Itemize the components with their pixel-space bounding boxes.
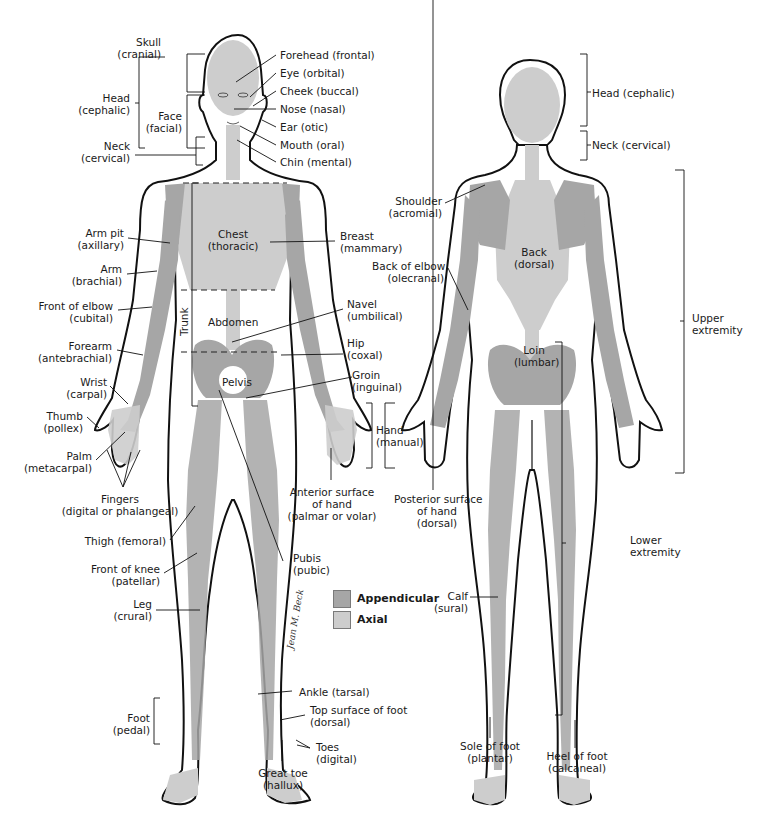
label-lower-extremity: Lower extremity	[630, 534, 681, 558]
label-navel-line1: Navel	[347, 298, 403, 310]
label-toes-line2: (digital)	[316, 753, 357, 765]
label-front-of-knee: Front of knee (patellar)	[60, 563, 160, 587]
label-front-of-knee-line2: (patellar)	[60, 575, 160, 587]
label-mouth: Mouth (oral)	[280, 139, 345, 151]
label-chest: Chest (thoracic)	[205, 228, 261, 252]
label-forehead: Forehead (frontal)	[280, 49, 375, 61]
label-forearm-line2: (antebrachial)	[10, 352, 112, 364]
label-chest-line2: (thoracic)	[205, 240, 261, 252]
label-great-toe-line1: Great toe	[255, 767, 311, 779]
label-nose: Nose (nasal)	[280, 103, 346, 115]
label-navel: Navel (umbilical)	[347, 298, 403, 322]
label-pelvis: Pelvis	[222, 376, 252, 388]
label-hip-line1: Hip	[347, 337, 383, 349]
label-shoulder-line2: (acromial)	[380, 207, 442, 219]
label-skull-line2: (cranial)	[96, 48, 161, 60]
label-groin-line2: (inguinal)	[352, 381, 402, 393]
label-foot-line1: Foot	[100, 712, 150, 724]
label-posterior-hand-line2: of hand	[394, 505, 480, 517]
label-anterior-surface-of-hand: Anterior surface of hand (palmar or vola…	[282, 486, 382, 522]
label-posterior-hand-line1: Posterior surface	[394, 493, 480, 505]
label-cheek: Cheek (buccal)	[280, 85, 359, 97]
label-back-elbow-line2: (olecranal)	[372, 272, 444, 284]
label-leg-line2: (crural)	[100, 610, 152, 622]
label-loin: Loin (lumbar)	[514, 344, 554, 368]
label-abdomen: Abdomen	[208, 316, 258, 328]
label-shoulder-line1: Shoulder	[380, 195, 442, 207]
label-front-of-elbow: Front of elbow (cubital)	[10, 300, 113, 324]
label-upper-extremity-line2: extremity	[692, 324, 743, 336]
label-toes-line1: Toes	[316, 741, 357, 753]
label-great-toe-line2: (hallux)	[255, 779, 311, 791]
legend-label-appendicular: Appendicular	[357, 592, 439, 605]
label-palm: Palm (metacarpal)	[10, 450, 92, 474]
label-lower-extremity-line2: extremity	[630, 546, 681, 558]
posterior-figure	[402, 60, 662, 805]
label-neck-posterior: Neck (cervical)	[592, 139, 671, 151]
label-hip: Hip (coxal)	[347, 337, 383, 361]
label-breast-line1: Breast	[340, 230, 402, 242]
label-arm-pit: Arm pit (axillary)	[50, 227, 124, 251]
label-posterior-surface-of-hand: Posterior surface of hand (dorsal)	[394, 493, 480, 529]
label-heel-of-foot: Heel of foot (calcaneal)	[540, 750, 614, 774]
label-anterior-hand-line2: of hand	[282, 498, 382, 510]
label-pubis-line2: (pubic)	[293, 564, 330, 576]
label-hip-line2: (coxal)	[347, 349, 383, 361]
label-hand-anterior: Hand (manual)	[376, 424, 424, 448]
legend-swatch-appendicular	[333, 590, 351, 608]
label-ear: Ear (otic)	[280, 121, 328, 133]
legend-item-axial: Axial	[333, 609, 439, 630]
label-anterior-hand-line3: (palmar or volar)	[282, 510, 382, 522]
label-ankle: Ankle (tarsal)	[299, 686, 370, 698]
label-thumb-line2: (pollex)	[20, 422, 83, 434]
label-heel-line2: (calcaneal)	[540, 762, 614, 774]
label-fingers-line2: (digital or phalangeal)	[55, 505, 185, 517]
label-sole-line1: Sole of foot	[455, 740, 525, 752]
label-top-foot-line1: Top surface of foot	[310, 704, 407, 716]
label-face-line2: (facial)	[130, 122, 182, 134]
label-fingers-line1: Fingers	[55, 493, 185, 505]
label-foot-line2: (pedal)	[100, 724, 150, 736]
label-back-elbow-line1: Back of elbow	[372, 260, 444, 272]
label-arm-pit-line1: Arm pit	[50, 227, 124, 239]
label-eye: Eye (orbital)	[280, 67, 345, 79]
label-groin: Groin (inguinal)	[352, 369, 402, 393]
legend: Appendicular Axial	[333, 588, 439, 630]
label-forearm: Forearm (antebrachial)	[10, 340, 112, 364]
label-anterior-hand-line1: Anterior surface	[282, 486, 382, 498]
label-foot: Foot (pedal)	[100, 712, 150, 736]
label-sole-line2: (plantar)	[455, 752, 525, 764]
label-sole-of-foot: Sole of foot (plantar)	[455, 740, 525, 764]
label-skull: Skull (cranial)	[96, 36, 161, 60]
label-toes: Toes (digital)	[316, 741, 357, 765]
label-back-line1: Back	[514, 246, 554, 258]
label-upper-extremity-line1: Upper	[692, 312, 743, 324]
label-fingers: Fingers (digital or phalangeal)	[55, 493, 185, 517]
label-face-line1: Face	[130, 110, 182, 122]
label-loin-line2: (lumbar)	[514, 356, 554, 368]
label-back-of-elbow: Back of elbow (olecranal)	[372, 260, 444, 284]
label-arm: Arm (brachial)	[50, 263, 122, 287]
label-wrist: Wrist (carpal)	[40, 376, 107, 400]
label-groin-line1: Groin	[352, 369, 402, 381]
label-neck-line2: (cervical)	[60, 152, 130, 164]
label-pubis: Pubis (pubic)	[293, 552, 330, 576]
label-arm-pit-line2: (axillary)	[50, 239, 124, 251]
label-neck-line1: Neck	[60, 140, 130, 152]
label-posterior-hand-line3: (dorsal)	[394, 517, 480, 529]
label-back-line2: (dorsal)	[514, 258, 554, 270]
label-back: Back (dorsal)	[514, 246, 554, 270]
label-wrist-line1: Wrist	[40, 376, 107, 388]
legend-swatch-axial	[333, 611, 351, 629]
label-upper-extremity: Upper extremity	[692, 312, 743, 336]
label-breast-line2: (mammary)	[340, 242, 402, 254]
label-great-toe: Great toe (hallux)	[255, 767, 311, 791]
label-head-line1: Head	[60, 92, 130, 104]
label-head: Head (cephalic)	[60, 92, 130, 116]
label-palm-line1: Palm	[10, 450, 92, 462]
label-chest-line1: Chest	[205, 228, 261, 240]
label-top-surface-of-foot: Top surface of foot (dorsal)	[310, 704, 407, 728]
label-lower-extremity-line1: Lower	[630, 534, 681, 546]
label-shoulder: Shoulder (acromial)	[380, 195, 442, 219]
label-leg-line1: Leg	[100, 598, 152, 610]
